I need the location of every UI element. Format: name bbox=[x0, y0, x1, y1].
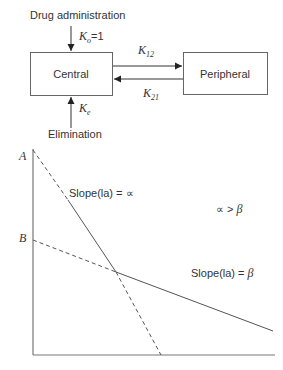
alpha-extrapolation-dashed-line bbox=[33, 150, 68, 200]
intercept-a-label: A bbox=[18, 149, 27, 163]
k21-label: K21 bbox=[142, 86, 159, 102]
input-rate-label: Ko=1 bbox=[78, 29, 104, 45]
beta-slope-label: Slope(la) = β bbox=[191, 266, 254, 280]
central-compartment-label: Central bbox=[53, 68, 88, 80]
k12-label: K12 bbox=[137, 43, 154, 59]
alpha-residual-dashed-line bbox=[116, 272, 161, 355]
drug-administration-label: Drug administration bbox=[30, 9, 125, 21]
two-compartment-diagram: Drug administration Ko=1 Central Periphe… bbox=[0, 0, 283, 370]
alpha-phase-line bbox=[68, 200, 116, 272]
elimination-label: Elimination bbox=[48, 128, 102, 140]
intercept-b-label: B bbox=[19, 231, 27, 245]
alpha-greater-than-beta-label: ∝ > β bbox=[216, 202, 243, 216]
beta-phase-line bbox=[116, 272, 273, 331]
beta-extrapolation-dashed-line bbox=[33, 240, 116, 272]
peripheral-compartment-label: Peripheral bbox=[200, 68, 250, 80]
alpha-slope-label: Slope(la) = ∝ bbox=[69, 187, 134, 199]
elimination-rate-label: Ke bbox=[78, 101, 91, 117]
